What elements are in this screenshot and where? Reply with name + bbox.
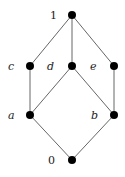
edge-d-a	[30, 66, 72, 115]
edge-d-b	[72, 66, 114, 115]
node-label-b: b	[91, 109, 98, 122]
hasse-diagram: 1cdeab0	[0, 0, 125, 177]
node-label-a: a	[8, 109, 15, 122]
node-b	[110, 111, 118, 119]
node-label-c: c	[8, 60, 14, 73]
edges	[30, 15, 114, 160]
node-d	[68, 62, 76, 70]
node-label-e: e	[90, 60, 97, 73]
node-bottom	[68, 156, 76, 164]
node-e	[110, 62, 118, 70]
node-label-d: d	[47, 60, 54, 73]
node-label-top: 1	[50, 9, 57, 22]
node-top	[68, 11, 76, 19]
node-c	[26, 62, 34, 70]
edge-top-c	[30, 15, 72, 66]
node-a	[26, 111, 34, 119]
edge-top-e	[72, 15, 114, 66]
node-label-bottom: 0	[48, 154, 55, 167]
